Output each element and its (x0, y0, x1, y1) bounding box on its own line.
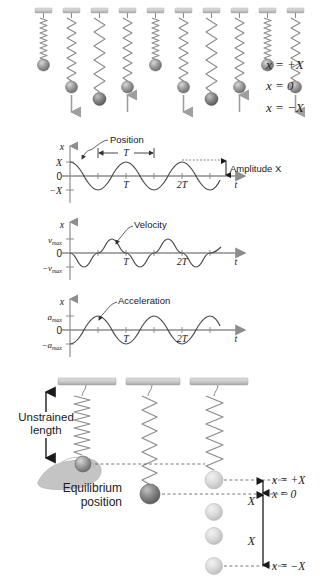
spring-hook-panel-1 (82, 385, 86, 396)
top-label-plus-X: x = +X (265, 57, 305, 72)
ceiling-support-4 (119, 8, 136, 13)
ceiling-support-1 (35, 8, 52, 13)
ceiling-support-7 (203, 8, 220, 13)
mass-ball-6 (178, 81, 190, 93)
figure-root: x = +X x = 0 x = −X x X 0 −X T 2T t Posi… (0, 0, 328, 583)
position-callout-leader (82, 140, 108, 159)
spring-equilibrium-diagram: Unstrained length Equilibrium position (18, 378, 306, 575)
spring-unit-8 (231, 8, 248, 112)
position-ylabel-minusX: −X (49, 185, 63, 196)
mass-ball-2 (66, 81, 78, 93)
amplitude-marker: Amplitude X (182, 160, 282, 175)
velocity-xlabel-T: T (123, 256, 130, 267)
spring-coil-5 (152, 18, 159, 60)
ceiling-support-8 (231, 8, 248, 13)
spring-coil-9 (264, 18, 271, 60)
acceleration-x-axis-label: t (235, 333, 238, 344)
physics-figure-svg: x = +X x = 0 x = −X x X 0 −X T 2T t Posi… (0, 0, 328, 583)
ceiling-support-10 (287, 8, 304, 13)
bottom-label-minus-X: x = −X (271, 560, 306, 572)
spring-unit-3 (91, 8, 108, 106)
period-bracket-label: T (123, 147, 130, 158)
spring-coil-7 (206, 18, 217, 92)
position-ylabel-X: X (55, 157, 63, 168)
equilibrium-label-line2: position (81, 495, 122, 509)
acceleration-xlabel-2T: 2T (177, 333, 189, 344)
amplitude-mark-upper: X (247, 494, 256, 508)
ceiling-support-panel-2 (126, 378, 180, 385)
spring-hook-panel-3 (214, 385, 218, 396)
top-label-minus-X: x = −X (265, 100, 305, 115)
ghost-ball-lower-mid (206, 528, 223, 545)
panel-unstrained-spring: Unstrained length (18, 385, 101, 490)
mass-ball-7 (205, 93, 218, 106)
spring-coil-panel-2 (142, 396, 157, 484)
position-xlabel-T: T (123, 179, 130, 190)
bottom-label-zero: x = 0 (271, 488, 297, 500)
velocity-graph: x vmax 0 −vmax T 2T t Velocity (42, 219, 245, 280)
mass-ball-8 (234, 81, 246, 93)
spring-unit-2 (63, 8, 80, 112)
ghost-ball-upper-mid (206, 504, 223, 521)
top-label-zero: x = 0 (265, 78, 294, 93)
velocity-ylabel-minus-vmax: −vmax (42, 263, 62, 274)
unstrained-length-label-line2: length (30, 424, 61, 436)
ghost-ball-minus-X (206, 558, 223, 575)
velocity-y-axis-label: x (59, 219, 65, 230)
mass-ball-4 (122, 81, 134, 93)
spring-coil-8 (235, 18, 244, 81)
ceiling-support-5 (147, 8, 164, 13)
position-y-axis-label: x (59, 141, 65, 152)
panel-oscillation (205, 385, 223, 575)
position-ylabel-zero: 0 (56, 171, 62, 182)
unstrained-length-label-line1: Unstrained (18, 411, 74, 423)
bottom-label-plus-X: x = +X (271, 474, 306, 486)
ceiling-support-6 (175, 8, 192, 13)
spring-coil-6 (179, 18, 188, 81)
velocity-callout-label: Velocity (134, 219, 167, 230)
velocity-x-axis-label: t (235, 256, 238, 267)
spring-unit-5 (147, 8, 164, 71)
spring-unit-7 (203, 8, 220, 106)
ceiling-support-9 (259, 8, 276, 13)
spring-coil-1 (40, 18, 47, 60)
ceiling-support-panel-1 (58, 378, 116, 385)
amplitude-mark-lower: X (247, 534, 256, 548)
mass-ball-1 (38, 59, 50, 71)
velocity-xlabel-2T: 2T (177, 256, 189, 267)
position-xlabel-2T: 2T (177, 179, 189, 190)
acceleration-ylabel-zero: 0 (56, 325, 62, 336)
position-x-axis-label: t (235, 179, 238, 190)
spring-coil-panel-1 (74, 396, 90, 455)
mass-ball-in-hand (75, 456, 91, 472)
acceleration-xlabel-T: T (123, 333, 130, 344)
position-graph: x X 0 −X T 2T t Position T Amplitude X (49, 134, 282, 203)
velocity-ylabel-zero: 0 (56, 248, 62, 259)
acceleration-ylabel-amax: amax (48, 312, 63, 323)
ghost-ball-plus-X (205, 471, 223, 489)
ceiling-support-3 (91, 8, 108, 13)
position-callout-label: Position (110, 134, 144, 145)
period-bracket: T (98, 147, 154, 158)
spring-hook-panel-2 (148, 385, 152, 396)
velocity-ylabel-vmax: vmax (48, 235, 62, 246)
acceleration-y-axis-label: x (59, 296, 65, 307)
mass-ball-equilibrium (140, 484, 160, 504)
spring-coil-2 (67, 18, 76, 81)
amplitude-label: Amplitude X (230, 163, 282, 174)
acceleration-callout-label: Acceleration (118, 295, 170, 306)
spring-oscillation-sequence: x = +X x = 0 x = −X (35, 8, 305, 115)
mass-ball-3 (93, 93, 106, 106)
spring-coil-panel-3 (206, 396, 223, 470)
ceiling-support-2 (63, 8, 80, 13)
mass-ball-5 (150, 59, 162, 71)
spring-coil-3 (94, 18, 105, 92)
velocity-callout-leader (116, 226, 133, 244)
spring-coil-4 (123, 18, 132, 81)
ceiling-support-panel-3 (190, 378, 248, 385)
spring-unit-4 (119, 8, 136, 112)
spring-unit-6 (175, 8, 192, 112)
equilibrium-label-line1: Equilibrium (63, 481, 122, 495)
acceleration-ylabel-minus-amax: −amax (41, 340, 62, 351)
spring-unit-1 (35, 8, 52, 71)
